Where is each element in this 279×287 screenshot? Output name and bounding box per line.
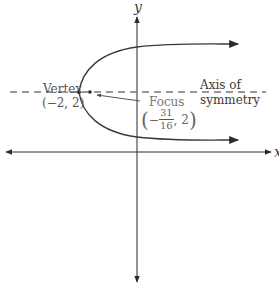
focus-point bbox=[88, 90, 92, 94]
focus-coords: (−3116, 2) bbox=[141, 108, 197, 131]
focus-pointer-arrow bbox=[97, 95, 140, 101]
axis-of-symmetry-label-line2: symmetry bbox=[200, 94, 260, 106]
focus-numerator: 31 bbox=[159, 108, 174, 120]
vertex-label: Vertex bbox=[43, 83, 82, 95]
y-axis-label: y bbox=[134, 0, 142, 14]
vertex-coords: (−2, 2) bbox=[42, 97, 84, 109]
focus-open-paren: ( bbox=[141, 108, 149, 132]
focus-rest: , 2 bbox=[174, 113, 189, 127]
focus-fraction: 3116 bbox=[159, 108, 174, 131]
x-axis-label: x bbox=[274, 145, 279, 159]
focus-sign: − bbox=[149, 113, 159, 127]
parabola-diagram: y x Vertex (−2, 2) Focus (−3116, 2) Axis… bbox=[0, 0, 279, 287]
focus-close-paren: ) bbox=[189, 108, 197, 132]
axis-of-symmetry-label-line1: Axis of bbox=[200, 79, 241, 91]
graph-svg bbox=[0, 0, 279, 287]
focus-denominator: 16 bbox=[160, 120, 173, 131]
